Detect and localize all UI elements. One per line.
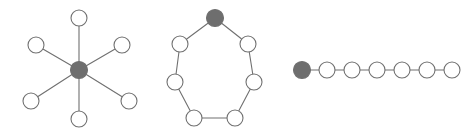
graph-node (23, 93, 39, 109)
cycle-graph-edges (175, 18, 254, 118)
star-graph-nodes (23, 10, 137, 127)
graph-node-root (71, 62, 88, 79)
graph-node-root (207, 10, 224, 27)
path-graph-nodes (294, 62, 461, 79)
graph-node (369, 62, 385, 78)
graph-node (419, 62, 435, 78)
cycle-graph (167, 10, 262, 127)
graph-node (240, 36, 256, 52)
graph-node (394, 62, 410, 78)
graph-canvas (0, 0, 463, 137)
graph-node (121, 93, 137, 109)
graph-node-root (294, 62, 311, 79)
graph-node (227, 110, 243, 126)
path-graph (294, 62, 461, 79)
graph-node (246, 74, 262, 90)
graph-node (172, 36, 188, 52)
graph-node (167, 74, 183, 90)
graph-node (186, 110, 202, 126)
graph-figure (0, 0, 463, 137)
star-graph (23, 10, 137, 127)
cycle-graph-nodes (167, 10, 262, 127)
graph-node (114, 37, 130, 53)
graph-node (28, 37, 44, 53)
graph-node (319, 62, 335, 78)
graphs-layer (23, 10, 460, 128)
graph-node (71, 10, 87, 26)
graph-node (344, 62, 360, 78)
graph-node (71, 111, 87, 127)
graph-node (444, 62, 460, 78)
